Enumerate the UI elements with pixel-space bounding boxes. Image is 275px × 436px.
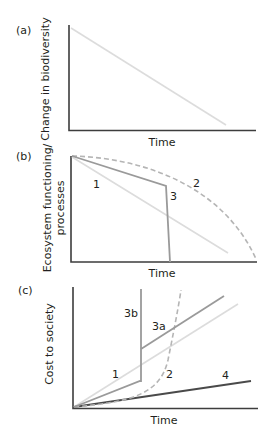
panel-c-curve-1-label: 1: [112, 368, 119, 381]
panel-a-axes: [69, 25, 256, 131]
panel-b-curve-1: [72, 157, 228, 253]
panel-c-ylabel: Cost to society: [43, 303, 56, 385]
panel-c-curve-2-label: 2: [166, 368, 173, 381]
panel-a-ylabel: Change in biodiversity: [39, 17, 52, 141]
panel-b-ylabel-line2: processes: [54, 180, 67, 235]
panel-c-curve-4-label: 4: [222, 369, 229, 382]
panel-b-ylabel-line1: Ecosystem functioning/: [41, 143, 54, 272]
panel-b-curve-1-label: 1: [93, 178, 100, 191]
panel-c-curve-4: [74, 381, 251, 407]
panel-b-label: (b): [16, 150, 32, 163]
panel-a-biodiversity-line: [71, 28, 226, 125]
panel-b-curve-3-label: 3: [170, 190, 177, 203]
panel-b: (b) Ecosystem functioning/ processes 1 2…: [16, 143, 257, 280]
panel-c-curve-3a-label: 3a: [152, 320, 166, 333]
panel-a: (a) Change in biodiversity Time: [16, 17, 256, 149]
panel-c-label: (c): [18, 284, 33, 297]
panel-b-curve-2-label: 2: [193, 177, 200, 190]
panel-c-xlabel: Time: [150, 414, 178, 427]
panel-c: (c) Cost to society 1 2 3a 3b 4 Time: [18, 284, 258, 427]
panel-b-axes: [71, 156, 257, 262]
panel-a-label: (a): [16, 24, 31, 37]
panel-a-xlabel: Time: [148, 136, 176, 149]
panel-b-curve-2: [72, 156, 256, 259]
panel-c-curve-3b-label: 3b: [124, 307, 138, 320]
figure-canvas: (a) Change in biodiversity Time (b) Ecos…: [0, 0, 275, 436]
panel-b-xlabel: Time: [148, 267, 176, 280]
